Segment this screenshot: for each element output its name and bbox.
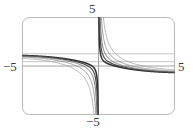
- axis-tick-label-left: −5: [3, 60, 17, 73]
- axis-tick-label-right: 5: [178, 60, 185, 73]
- axis-tick-label-bottom: −5: [86, 115, 100, 128]
- axis-tick-label-top: 5: [89, 2, 96, 15]
- figure-container: 5 −5 −5 5: [0, 0, 193, 133]
